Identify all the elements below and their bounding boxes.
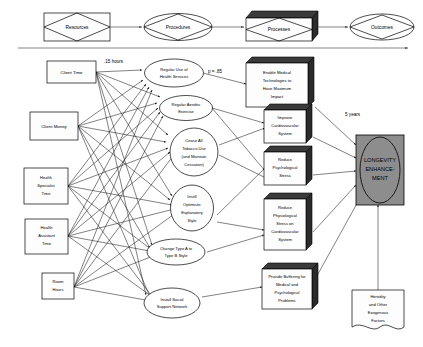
proc3d-label-ics-2: Cardiovascular — [271, 123, 299, 128]
header-processes: Processes — [246, 11, 318, 41]
proc3d-label-rps-1: Reduce — [278, 157, 293, 162]
proc3d-label-rphs-4: Cardiovascular — [271, 229, 299, 234]
resource-label-ha-1: Health — [41, 225, 54, 230]
resource-label-ha-2: Assistant — [38, 233, 55, 238]
header-label-outcomes: Outcomes — [371, 25, 393, 30]
resource-label-client-money: Client Money — [41, 124, 67, 129]
proc3d-label-emt-3: Have Maximum — [263, 86, 292, 91]
procedure-node-regular-aerobic-exercise[interactable]: Regular Aerobic Exercise — [160, 96, 213, 121]
proc-label-ios-1: Instill — [187, 194, 196, 199]
resource-label-hs-2: Specialist — [37, 183, 55, 188]
proc-label-ctab-1: Change Type A to — [160, 246, 193, 251]
resource-label-rh-1: Room — [53, 279, 65, 284]
procedure-node-regular-use-health-services[interactable]: Regular Use of Health Services — [145, 59, 204, 87]
process-node-enable-medical-technologies[interactable]: Enable Medical Technologies to Have Maxi… — [246, 57, 314, 107]
proc3d-label-rps-2: Psychological — [272, 165, 297, 170]
proc3d-label-rphs-5: System — [278, 237, 292, 242]
proc-label-ios-2: Optimistic — [183, 202, 201, 207]
proc-label-ctu-3: (and Maintain — [182, 154, 208, 159]
proc-label-rae-2: Exercise — [178, 109, 194, 114]
exogenous-node-heredity[interactable]: Heredity and Other Exogenous Factors — [352, 290, 404, 329]
proc3d-label-pb-4: Problems — [278, 298, 295, 303]
process-node-improve-cardiovascular-system[interactable]: Improve Cardiovascular System — [264, 104, 312, 143]
resource-node-room-hours[interactable]: Room Hours — [42, 273, 74, 299]
procedure-node-change-type-a-to-b[interactable]: Change Type A to Type B Style — [147, 239, 205, 265]
exo-label-4: Factors — [371, 318, 385, 323]
outcome-label-2: ENHANCE- — [365, 166, 394, 172]
proc3d-label-rphs-1: Reduce — [278, 205, 293, 210]
proc-label-iss-1: Install Social — [161, 297, 184, 302]
proc-label-ruhs-1: Regular Use of — [160, 67, 188, 72]
diagram-canvas: Resources Procedures Processes Outcomes — [0, 0, 423, 347]
proc-label-rae-1: Regular Aerobic — [171, 102, 200, 107]
outcome-label-3: MENT — [372, 175, 388, 181]
header-resources: Resources — [44, 13, 110, 41]
resource-label-hs-1: Health — [40, 175, 53, 180]
annotation-years: 5 years — [345, 112, 361, 117]
procedure-node-install-social-support[interactable]: Install Social Support Network — [144, 288, 200, 318]
resource-label-hs-3: Time — [42, 191, 52, 196]
header-procedures: Procedures — [144, 14, 212, 41]
proc-label-ios-4: Style — [187, 218, 197, 223]
proc3d-label-pb-2: Medical and — [276, 282, 299, 287]
proc-label-ctab-2: Type B Style — [165, 253, 189, 258]
header-outcomes: Outcomes — [350, 14, 414, 40]
proc3d-label-rphs-3: Stress on — [276, 221, 294, 226]
header-label-resources: Resources — [66, 25, 90, 30]
proc-label-ios-3: Explanatory — [181, 210, 204, 215]
annotation-hours: .15 hours — [104, 59, 124, 64]
outcome-node-longevity-enhancement[interactable]: LONGEVITY ENHANCE- MENT — [356, 135, 404, 205]
resource-node-client-time[interactable]: Client Time — [47, 61, 96, 83]
resource-label-rh-2: Hours — [53, 287, 64, 292]
proc3d-label-rphs-2: Physiological — [273, 213, 297, 218]
procedure-node-instill-optimistic-style[interactable]: Instill Optimistic Explanatory Style — [171, 185, 214, 231]
resource-node-health-specialist-time[interactable]: Health Specialist Time — [24, 168, 68, 204]
process-node-reduce-psychological-stress[interactable]: Reduce Psychological Stress — [264, 146, 312, 185]
proc3d-label-pb-3: Psychological — [274, 290, 299, 295]
proc3d-label-rps-3: Stress — [279, 173, 291, 178]
outcome-label-1: LONGEVITY — [364, 157, 396, 163]
proc-label-ruhs-2: Health Services — [160, 74, 189, 79]
annotation-p-value: p = .85 — [208, 69, 223, 74]
proc-label-ctu-2: Tobacco Use — [182, 146, 206, 151]
procedure-node-cease-tobacco-use[interactable]: Cease All Tobacco Use (and Maintain Cess… — [170, 128, 218, 176]
proc3d-label-emt-1: Enable Medical — [263, 70, 291, 75]
resource-label-client-time: Client Time — [61, 70, 84, 75]
proc3d-label-pb-1: Provide Buffering for — [268, 274, 306, 279]
process-node-provide-buffering[interactable]: Provide Buffering for Medical and Psycho… — [262, 263, 318, 309]
proc3d-label-emt-2: Technologies to — [263, 78, 292, 83]
resource-label-ha-3: Time — [42, 241, 52, 246]
header-label-procedures: Procedures — [166, 25, 191, 30]
proc-label-ctu-4: Cessation) — [184, 162, 204, 167]
resource-node-health-assistant-time[interactable]: Health Assistant Time — [25, 219, 68, 254]
exo-label-2: and Other — [369, 302, 388, 307]
proc3d-label-ics-1: Improve — [278, 115, 294, 120]
proc-label-iss-2: Support Network — [157, 304, 188, 309]
process-node-reduce-physiological-stress[interactable]: Reduce Physiological Stress on Cardiovas… — [264, 193, 312, 250]
exo-label-3: Exogenous — [368, 310, 389, 315]
proc-label-ctu-1: Cease All — [185, 138, 202, 143]
exo-label-1: Heredity — [370, 294, 386, 299]
proc3d-label-ics-3: System — [278, 131, 292, 136]
header-label-processes: Processes — [268, 27, 291, 32]
resource-node-client-money[interactable]: Client Money — [30, 112, 78, 140]
proc3d-label-emt-4: Impact — [271, 94, 284, 99]
